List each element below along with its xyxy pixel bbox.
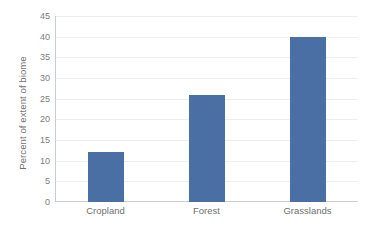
y-tick-label-20: 20 [40,114,50,124]
bar-chart-figure: Percent of extent of biome 0510152025303… [0,0,372,226]
y-tick-label-40: 40 [40,32,50,42]
x-axis-category-labels: CroplandForestGrasslands [55,205,358,216]
bar-cropland[interactable] [88,152,124,202]
y-tick-label-10: 10 [40,156,50,166]
y-tick-label-15: 15 [40,135,50,145]
y-tick-label-0: 0 [45,197,50,207]
x-label-forest: Forest [156,205,257,216]
y-axis-tick-labels: 051015202530354045 [26,16,50,202]
bar-slot-forest [157,16,258,202]
y-tick-label-35: 35 [40,52,50,62]
y-tick-label-25: 25 [40,94,50,104]
x-label-grasslands: Grasslands [257,205,358,216]
y-tick-label-45: 45 [40,11,50,21]
bar-forest[interactable] [189,95,225,202]
x-label-cropland: Cropland [55,205,156,216]
bars-layer [56,16,358,202]
bar-slot-grasslands [257,16,358,202]
bar-grasslands[interactable] [290,37,326,202]
y-tick-label-30: 30 [40,73,50,83]
bar-slot-cropland [56,16,157,202]
plot-area [55,16,358,202]
y-tick-label-5: 5 [45,176,50,186]
